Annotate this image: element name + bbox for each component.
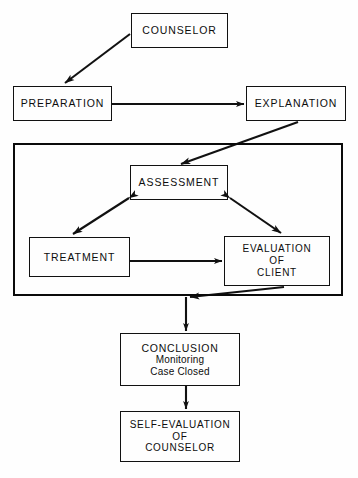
node-conclusion-line1: CONCLUSION	[141, 342, 218, 354]
node-self-evaluation-line3: COUNSELOR	[145, 442, 215, 454]
node-conclusion-line2: Monitoring	[156, 354, 205, 366]
node-treatment-label: TREATMENT	[44, 251, 116, 263]
node-explanation[interactable]: EXPLANATION	[246, 86, 346, 121]
node-assessment[interactable]: ASSESSMENT	[130, 165, 228, 200]
node-assessment-label: ASSESSMENT	[139, 176, 220, 188]
node-self-evaluation-of-counselor[interactable]: SELF-EVALUATION OF COUNSELOR	[120, 411, 240, 462]
node-evaluation-of-client-line3: CLIENT	[257, 267, 297, 279]
node-counselor[interactable]: COUNSELOR	[131, 13, 228, 48]
node-self-evaluation-line1: SELF-EVALUATION	[130, 419, 231, 431]
node-evaluation-of-client[interactable]: EVALUATION OF CLIENT	[224, 236, 330, 286]
node-counselor-label: COUNSELOR	[142, 24, 217, 36]
node-self-evaluation-line2: OF	[172, 431, 187, 443]
flowchart-canvas: COUNSELOR PREPARATION EXPLANATION ASSESS…	[0, 0, 358, 478]
node-conclusion-line3: Case Closed	[150, 366, 209, 378]
node-evaluation-of-client-line2: OF	[269, 255, 284, 267]
node-evaluation-of-client-line1: EVALUATION	[243, 243, 312, 255]
node-explanation-label: EXPLANATION	[255, 97, 338, 109]
node-preparation[interactable]: PREPARATION	[13, 86, 112, 121]
node-preparation-label: PREPARATION	[21, 97, 105, 109]
edge-counselor-to-preparation	[65, 34, 130, 83]
node-treatment[interactable]: TREATMENT	[29, 237, 130, 277]
node-conclusion[interactable]: CONCLUSION Monitoring Case Closed	[120, 333, 240, 386]
